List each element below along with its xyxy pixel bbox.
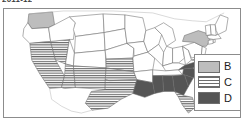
legend-swatch-b-icon	[198, 61, 220, 73]
state-ME[interactable]	[215, 15, 228, 35]
figure-root: 2011-12	[0, 0, 247, 126]
map-legend: B C D	[194, 54, 241, 111]
state-TN[interactable]	[153, 70, 183, 76]
state-LA[interactable]	[133, 80, 155, 98]
state-FL[interactable]	[175, 91, 196, 113]
legend-swatch-d-icon	[198, 92, 220, 104]
legend-item-b[interactable]: B	[198, 60, 238, 74]
legend-swatch-c-icon	[198, 76, 220, 88]
state-IN[interactable]	[163, 46, 173, 66]
state-CO[interactable]	[73, 50, 106, 68]
state-MN[interactable]	[125, 15, 146, 43]
state-RI[interactable]	[213, 39, 215, 42]
map-frame: B C D	[3, 8, 241, 118]
state-MS[interactable]	[153, 76, 164, 94]
legend-label-b: B	[224, 61, 231, 72]
legend-item-d[interactable]: D	[198, 91, 238, 105]
legend-item-c[interactable]: C	[198, 75, 238, 89]
mexico-outline	[50, 89, 93, 114]
legend-label-d: D	[224, 93, 232, 104]
state-NM[interactable]	[73, 66, 106, 90]
state-WA[interactable]	[28, 12, 55, 29]
caption-fragment: 2011-12	[2, 0, 32, 4]
state-CT[interactable]	[208, 39, 213, 44]
legend-label-c: C	[224, 77, 232, 88]
